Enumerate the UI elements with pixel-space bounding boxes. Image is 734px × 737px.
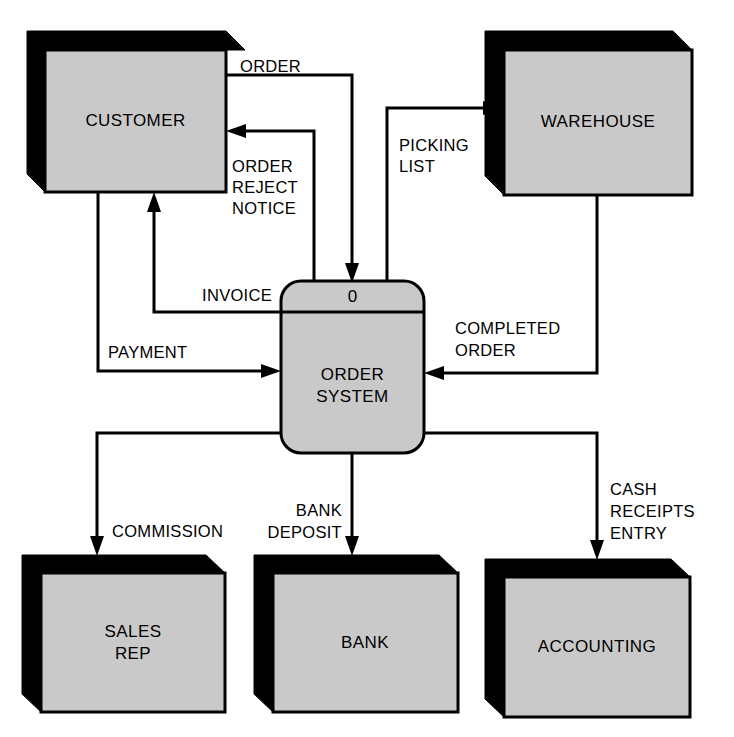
flow-picking-list-label-line2: LIST	[399, 157, 435, 175]
flow-cash-receipts-entry	[424, 433, 604, 560]
flow-order-reject-notice-arrowhead	[226, 124, 246, 138]
process-order-system-name-line2: SYSTEM	[316, 387, 388, 406]
flow-commission-label: COMMISSION	[112, 522, 223, 540]
flow-completed-order-arrowhead	[424, 366, 444, 380]
flow-bank-deposit	[345, 453, 359, 556]
entity-customer-shadow-top	[27, 31, 245, 50]
flow-order-label: ORDER	[240, 57, 301, 75]
flow-cash-receipts-entry-line	[424, 433, 597, 546]
flow-cash-receipts-entry-label-line2: RECEIPTS	[610, 502, 695, 520]
flow-invoice-arrowhead	[147, 192, 161, 212]
flow-bank-deposit-arrowhead	[345, 536, 359, 556]
entity-customer-label: CUSTOMER	[85, 111, 185, 130]
entity-bank-shadow-top	[254, 555, 458, 573]
flow-completed-order-label-line1: COMPLETED	[455, 319, 560, 337]
entity-bank-label: BANK	[341, 633, 389, 652]
diagram-canvas: CUSTOMER WAREHOUSE SALES REP BANK	[0, 0, 734, 737]
flow-cash-receipts-entry-label-line1: CASH	[610, 480, 657, 498]
process-order-system[interactable]: 0 ORDER SYSTEM	[281, 281, 424, 453]
entity-sales-rep-label-line1: SALES	[105, 622, 162, 641]
flow-order-reject-notice-label-line2: REJECT	[232, 178, 298, 196]
data-flow-diagram: CUSTOMER WAREHOUSE SALES REP BANK	[0, 0, 734, 737]
entity-bank[interactable]: BANK	[254, 555, 458, 712]
flow-payment-label: PAYMENT	[108, 343, 187, 361]
entity-sales-rep-label-line2: REP	[115, 644, 151, 663]
entity-customer-shadow-left	[27, 31, 45, 192]
flow-order-reject-notice-label-line3: NOTICE	[232, 199, 296, 217]
entity-warehouse[interactable]: WAREHOUSE	[485, 31, 692, 195]
flow-order-reject-notice-label-line1: ORDER	[232, 157, 293, 175]
entity-accounting-shadow-left	[485, 559, 504, 717]
entity-sales-rep[interactable]: SALES REP	[22, 555, 225, 712]
entity-warehouse-shadow-left	[485, 31, 504, 195]
entity-sales-rep-shadow-top	[22, 555, 225, 573]
entity-sales-rep-shadow-left	[22, 555, 41, 712]
entity-accounting[interactable]: ACCOUNTING	[485, 559, 690, 717]
flow-picking-list-label-line1: PICKING	[399, 136, 469, 154]
flow-cash-receipts-entry-arrowhead	[590, 540, 604, 560]
flow-bank-deposit-label-line1: BANK	[296, 501, 342, 519]
flow-commission-arrowhead	[90, 536, 104, 556]
flow-completed-order-label-line2: ORDER	[455, 341, 516, 359]
flow-payment-arrowhead	[261, 364, 281, 378]
entity-bank-shadow-left	[254, 555, 273, 712]
flow-picking-list-line	[387, 108, 489, 281]
entity-sales-rep-face	[41, 573, 225, 712]
entity-accounting-label: ACCOUNTING	[538, 637, 656, 656]
entity-accounting-shadow-top	[485, 559, 690, 577]
entity-warehouse-shadow-top	[485, 31, 692, 50]
process-order-system-name-line1: ORDER	[321, 365, 384, 384]
flow-bank-deposit-label-line2: DEPOSIT	[267, 523, 342, 541]
flow-invoice-label: INVOICE	[202, 286, 272, 304]
process-order-system-number: 0	[348, 287, 357, 306]
entity-warehouse-label: WAREHOUSE	[541, 112, 655, 131]
flow-cash-receipts-entry-label-line3: ENTRY	[610, 524, 667, 542]
entity-customer[interactable]: CUSTOMER	[27, 31, 245, 192]
